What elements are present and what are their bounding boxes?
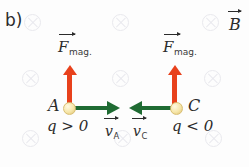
velocity-arrow-a [72,106,108,110]
magnetic-field-symbol: B [229,15,241,34]
force-c-overarrow-icon [164,34,180,35]
force-arrow-c-head-icon [168,65,182,75]
velocity-a-overarrow-icon [104,118,118,119]
magnetic-field-into-page-cross-icon [22,70,39,87]
force-a-overarrow-icon [59,34,75,35]
point-label-c: C [188,96,200,115]
force-label-c: Fmag. [163,40,197,57]
velocity-label-a: vA [105,124,119,140]
b-vector-overarrow-icon [228,11,241,12]
charge-particle-a [63,102,76,115]
force-symbol-a: F [58,38,68,56]
magnetic-field-label: B [229,17,241,33]
force-label-a: Fmag. [58,40,92,57]
magnetic-field-into-page-cross-icon [112,14,129,31]
magnetic-field-into-page-cross-icon [112,70,129,87]
panel-label: b) [5,10,22,30]
magnetic-field-into-page-cross-icon [202,14,219,31]
force-arrow-a-head-icon [63,65,77,75]
magnetic-field-into-page-cross-icon [24,14,41,31]
velocity-arrow-c-head-icon [129,101,142,115]
velocity-symbol-c: v [133,123,141,139]
point-label-a: A [48,96,60,115]
velocity-subscript-c: C [141,131,147,141]
charge-sign-label-a: q > 0 [47,117,88,135]
force-symbol-c: F [163,38,173,56]
velocity-subscript-a: A [113,131,119,141]
force-subscript-c: mag. [174,47,197,57]
magnetic-field-into-page-cross-icon [204,70,221,87]
velocity-arrow-a-head-icon [107,101,120,115]
magnetic-field-into-page-cross-icon [22,130,39,147]
figure-panel: b) B Fmag. Fmag. A C q > 0 q < 0 vA vC [0,0,249,167]
force-subscript-a: mag. [69,47,92,57]
charge-sign-label-c: q < 0 [172,117,213,135]
velocity-c-overarrow-icon [132,118,146,119]
velocity-symbol-a: v [105,123,113,139]
charge-particle-c [170,102,183,115]
velocity-label-c: vC [133,124,147,140]
